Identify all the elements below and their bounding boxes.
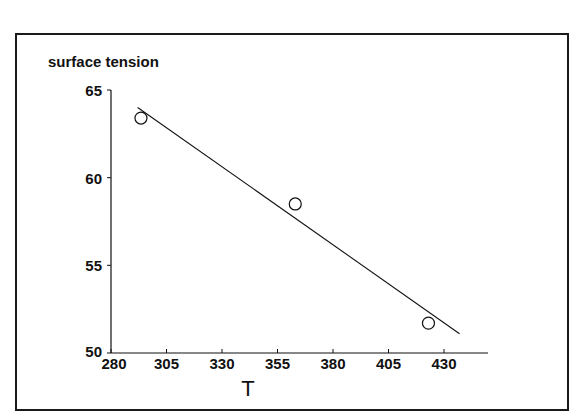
scatter-plot: surface tension T 5055606528030533035538… (0, 0, 571, 413)
axis-ticks: 50556065280305330355380405430 (85, 82, 456, 372)
y-tick-label: 65 (85, 82, 102, 99)
x-tick-label: 430 (431, 355, 456, 372)
x-tick-label: 280 (101, 355, 126, 372)
fit-line (138, 108, 460, 334)
y-tick-label: 60 (85, 170, 102, 187)
y-tick-label: 55 (85, 257, 102, 274)
data-point-marker (135, 112, 147, 124)
x-tick-label: 355 (265, 355, 290, 372)
data-point-marker (422, 317, 434, 329)
x-tick-label: 405 (376, 355, 401, 372)
x-axis-title: T (241, 376, 254, 401)
data-point-marker (289, 198, 301, 210)
data-series (135, 108, 460, 334)
y-axis-title: surface tension (48, 53, 159, 70)
x-tick-label: 330 (209, 355, 234, 372)
y-tick-label: 50 (85, 343, 102, 360)
x-tick-label: 380 (320, 355, 345, 372)
x-tick-label: 305 (154, 355, 179, 372)
